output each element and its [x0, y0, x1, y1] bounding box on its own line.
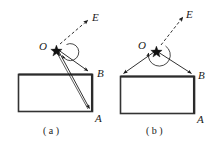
rope-to-b-b: [158, 52, 192, 74]
force-arrow-b: [161, 17, 183, 45]
figure-canvas: [0, 0, 214, 142]
force-arrow-a: [60, 20, 88, 44]
vertex-point-o-b: [151, 46, 162, 57]
panel-a: [19, 20, 93, 112]
label-b-b: B: [198, 70, 205, 81]
label-e-b: E: [186, 9, 193, 20]
caption-panel-b: ( b ): [146, 126, 163, 136]
label-a-a: A: [95, 113, 102, 124]
label-a-b: A: [197, 114, 204, 125]
label-o-a: O: [39, 41, 47, 52]
label-e-a: E: [92, 12, 99, 23]
rope-to-left-corner-b: [124, 52, 155, 74]
figure-root: O E B A ( a ) O E B A ( b ): [0, 0, 214, 142]
label-o-b: O: [138, 40, 146, 51]
caption-panel-a: ( a ): [43, 126, 59, 136]
block-rectangle-b: [121, 77, 195, 114]
angle-arc-a: [63, 44, 79, 61]
label-b-a: B: [97, 68, 104, 79]
panel-b: [121, 17, 195, 114]
